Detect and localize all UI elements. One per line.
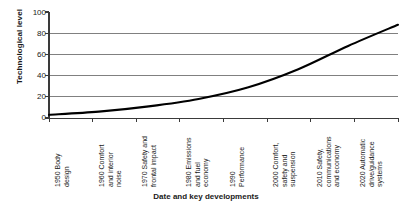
x-tick-marks (49, 118, 398, 122)
gridlines (49, 33, 398, 97)
x-axis-title: Date and key developments (0, 192, 412, 201)
plot-area (0, 0, 412, 212)
data-series-line (49, 25, 398, 115)
chart-figure: Technological level 100 80 60 40 20 0 (0, 0, 412, 212)
